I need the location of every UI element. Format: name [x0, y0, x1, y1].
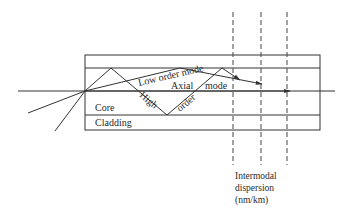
axial-mode-label: mode — [205, 80, 228, 91]
core-label: Core — [95, 102, 115, 113]
axial-label: Axial — [171, 80, 193, 91]
cladding-label: Cladding — [95, 117, 132, 128]
caption-line-1: Intermodal — [235, 170, 277, 182]
high-label: High — [138, 89, 160, 110]
caption-line-3: (nm/km) — [235, 194, 277, 206]
fibre-dispersion-diagram: Low order mode Axial mode High order Cor… — [0, 0, 347, 212]
order-label: order — [174, 91, 198, 113]
caption-line-2: dispersion — [235, 182, 277, 194]
intermodal-dispersion-caption: Intermodal dispersion (nm/km) — [235, 170, 277, 206]
